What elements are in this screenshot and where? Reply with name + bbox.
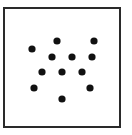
dot (30, 84, 37, 91)
dot (58, 95, 65, 102)
dot-pattern (0, 0, 132, 135)
dot (78, 68, 85, 75)
dot (86, 84, 93, 91)
dot (90, 37, 97, 44)
dot (58, 68, 65, 75)
dot (53, 37, 60, 44)
dot (28, 45, 35, 52)
dot (38, 68, 45, 75)
dot (68, 53, 75, 60)
dot (88, 53, 95, 60)
dot (48, 53, 55, 60)
